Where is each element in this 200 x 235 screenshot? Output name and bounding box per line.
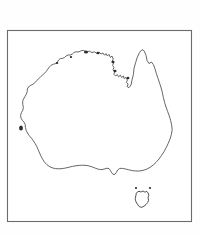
- arnhem-mark-icon: [112, 61, 115, 64]
- bass-strait-mark-a-icon: [135, 187, 137, 189]
- kimberley-mark-icon: [70, 56, 72, 58]
- gulf-mark-icon: [114, 70, 117, 73]
- bass-strait-mark-b-icon: [149, 187, 151, 189]
- map-figure: Australia Black line outline map of the …: [0, 0, 200, 235]
- cape-york-mark-icon: [127, 77, 130, 79]
- australia-outline-map: [0, 0, 200, 235]
- north-coast-mark-a-icon: [84, 51, 88, 54]
- pilbara-mark-icon: [56, 62, 59, 64]
- north-coast-mark-b-icon: [96, 52, 99, 54]
- west-coast-mark-icon: [19, 125, 23, 130]
